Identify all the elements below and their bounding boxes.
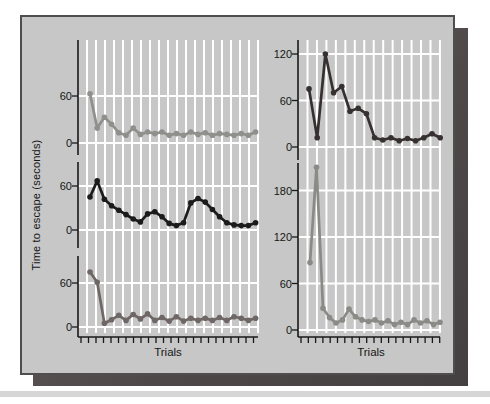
data-point-marker [413,138,419,144]
data-point-marker [238,315,244,321]
data-point-marker [102,196,108,202]
data-point-marker [306,86,312,92]
data-point-marker [392,322,398,328]
y-tick-label: 0 [66,224,72,236]
data-point-marker [166,318,172,324]
data-point-marker [380,137,386,143]
data-point-marker [231,222,237,228]
data-point-marker [346,306,352,312]
y-tick-label: 60 [60,180,72,192]
data-point-marker [347,109,353,115]
data-point-marker [314,135,320,141]
data-point-marker [188,200,194,206]
data-point-marker [87,269,93,275]
data-point-marker [210,132,216,138]
data-point-marker [109,121,115,127]
data-point-marker [145,129,151,135]
y-tick-label: 0 [66,321,72,333]
data-point-marker [424,318,430,324]
data-point-marker [202,315,208,321]
data-point-marker [181,318,187,324]
data-point-marker [116,130,122,136]
data-point-marker [366,319,372,325]
line-series-bottom-left [87,269,258,326]
data-point-marker [340,317,346,323]
data-point-marker [388,135,394,141]
data-point-marker [130,312,136,318]
data-point-marker [130,125,136,131]
data-point-marker [166,132,172,138]
data-point-marker [437,135,443,141]
data-point-marker [379,320,385,326]
data-point-marker [159,214,165,220]
data-point-marker [138,316,144,322]
data-point-marker [396,138,402,144]
data-point-marker [159,129,165,135]
y-tick-label: 60 [60,277,72,289]
data-point-marker [372,317,378,323]
data-point-marker [102,321,108,327]
data-point-marker [210,207,216,213]
data-point-marker [188,129,194,135]
data-point-marker [411,317,417,323]
data-point-marker [181,132,187,138]
data-point-marker [253,129,259,135]
data-point-marker [210,318,216,324]
data-point-marker [246,223,252,229]
data-point-marker [87,91,93,97]
data-point-marker [405,322,411,328]
escape-time-charts-canvas: 600600600120600180120600 [0,0,490,404]
y-tick-label: 180 [274,185,292,197]
data-point-marker [109,203,115,209]
data-point-marker [94,178,100,184]
x-axis-title-right-column: Trials [357,346,385,358]
data-point-marker [145,311,151,317]
page-bottom-rule [0,391,490,397]
data-point-marker [314,165,320,171]
data-point-marker [195,196,201,202]
data-point-marker [364,111,370,117]
data-point-marker [331,90,337,96]
data-point-marker [398,320,404,326]
data-point-marker [224,132,230,138]
data-point-marker [405,136,411,142]
y-tick-label: 60 [280,278,292,290]
line-series-top-left [87,91,258,138]
data-point-marker [437,320,443,326]
data-point-marker [327,315,333,321]
data-point-marker [174,131,180,137]
data-point-marker [217,214,223,220]
data-point-marker [238,223,244,229]
data-point-marker [418,320,424,326]
data-point-marker [224,220,230,226]
textbook-figure-page: 600600600120600180120600 Time to escape … [0,0,490,404]
data-point-marker [94,280,100,286]
data-point-marker [429,131,435,137]
data-point-marker [253,315,259,321]
y-axis-title: Time to escape (seconds) [30,140,42,271]
data-point-marker [138,132,144,138]
data-point-marker [116,207,122,213]
data-point-marker [116,313,122,319]
data-point-marker [323,51,329,57]
data-point-marker [87,194,93,200]
data-point-marker [353,314,359,320]
data-point-marker [202,130,208,136]
data-point-marker [246,318,252,324]
data-point-marker [385,318,391,324]
data-point-marker [359,317,365,323]
data-point-marker [166,221,172,227]
data-point-marker [217,131,223,137]
y-tick-label: 120 [274,231,292,243]
data-point-marker [152,209,158,215]
data-point-marker [123,212,129,218]
data-point-marker [202,199,208,205]
data-point-marker [320,306,326,312]
data-point-marker [188,315,194,321]
data-point-marker [246,132,252,138]
data-point-marker [372,135,378,141]
data-point-marker [123,132,129,138]
data-point-marker [123,318,129,324]
y-tick-label: 0 [66,137,72,149]
data-point-marker [307,260,313,266]
